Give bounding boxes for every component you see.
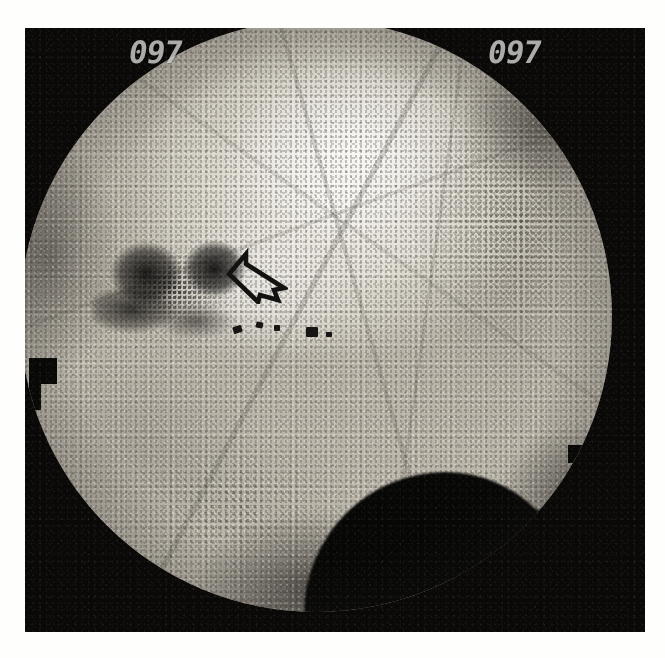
page-margin-bottom: [0, 632, 665, 658]
radiodense-clip: [306, 327, 318, 337]
radiodense-clip: [255, 321, 263, 328]
air-cell-speckle-right: [25, 28, 612, 612]
radiodense-clip: [326, 332, 332, 337]
dense-bone-tone-layer: [25, 28, 612, 612]
collimator-marker-left: [29, 358, 57, 384]
page-margin-right: [645, 0, 665, 658]
page-margin-top: [0, 0, 665, 28]
exposure-readout-left: 097: [126, 34, 185, 70]
collimator-marker-left-lower: [29, 384, 41, 410]
radiodense-clip: [232, 325, 243, 334]
film-grain-layer: [25, 28, 612, 612]
collimator-marker-right: [568, 445, 600, 463]
air-cell-speckle-bottom: [25, 28, 612, 612]
dense-dome-structure: [304, 472, 576, 612]
annotation-arrow-icon: [226, 248, 288, 304]
radiograph-page: 097 097: [0, 0, 665, 658]
soft-tissue-tone-layer: [25, 28, 612, 612]
vascular-line-layer: [25, 28, 612, 612]
exposure-readout-right: 097: [485, 34, 544, 70]
radiodense-clip: [274, 325, 280, 331]
dense-dome-structure-right: [450, 510, 612, 612]
fluoroscopy-field: [25, 28, 612, 612]
field-vignette: [25, 28, 612, 612]
page-margin-left: [0, 0, 25, 658]
film-frame: 097 097: [25, 28, 645, 632]
